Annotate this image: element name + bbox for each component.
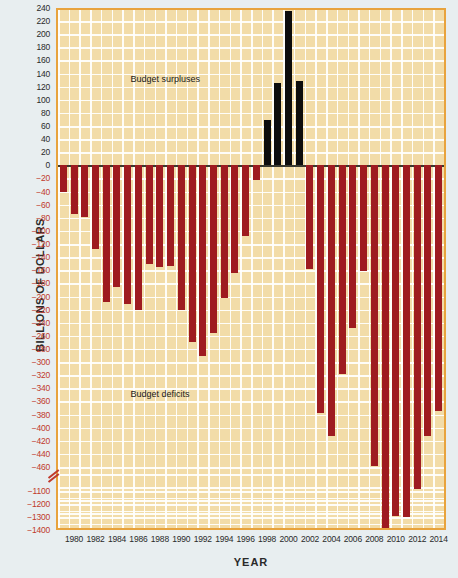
- gridline-h: [58, 100, 444, 102]
- y-tick-minus20: −20: [36, 173, 50, 183]
- annotation-budget-deficits: Budget deficits: [131, 389, 190, 399]
- y-tick-minus300: −300: [32, 357, 50, 367]
- gridline-h: [58, 21, 444, 23]
- annotation-budget-surpluses: Budget surpluses: [131, 74, 201, 84]
- gridline-v: [262, 10, 264, 528]
- bar-1979: [60, 165, 67, 191]
- gridline-h: [58, 126, 444, 128]
- x-axis-tick-labels: 1980198219841986198819901992199419961998…: [56, 534, 446, 548]
- gridline-v: [251, 10, 253, 528]
- gridline-v: [144, 10, 146, 528]
- x-tick-1992: 1992: [194, 534, 212, 544]
- gridline-v: [69, 10, 71, 528]
- x-tick-2014: 2014: [430, 534, 448, 544]
- y-axis-break-icon: [46, 470, 62, 482]
- y-tick-minus420: −420: [32, 436, 50, 446]
- y-tick-80: 80: [41, 108, 50, 118]
- bar-2007: [360, 165, 367, 271]
- bar-1990: [178, 165, 185, 310]
- bar-2002: [306, 165, 313, 269]
- bar-1993: [210, 165, 217, 332]
- bar-2006: [349, 165, 356, 328]
- y-tick-100: 100: [36, 95, 50, 105]
- gridline-v: [90, 10, 92, 528]
- y-tick-minus260: −260: [32, 331, 50, 341]
- bar-1982: [92, 165, 99, 249]
- y-tick-minus380: −380: [32, 410, 50, 420]
- y-tick-minus100: −100: [32, 226, 50, 236]
- bar-2001: [296, 81, 303, 165]
- y-tick-20: 20: [41, 147, 50, 157]
- y-tick-180: 180: [36, 42, 50, 52]
- y-tick-minus360: −360: [32, 396, 50, 406]
- x-tick-1986: 1986: [129, 534, 147, 544]
- x-tick-2006: 2006: [344, 534, 362, 544]
- y-tick-240: 240: [36, 3, 50, 13]
- x-tick-1984: 1984: [108, 534, 126, 544]
- bar-1997: [253, 165, 260, 179]
- bar-2013: [424, 165, 431, 436]
- y-axis-tick-labels: 240220200180160140120100806040200−20−40−…: [0, 0, 56, 578]
- y-tick-minus1300: −1300: [27, 512, 50, 522]
- y-tick-minus80: −80: [36, 213, 50, 223]
- bar-1983: [103, 165, 110, 301]
- gridline-h: [58, 152, 444, 154]
- bar-1996: [242, 165, 249, 235]
- x-axis-title: YEAR: [56, 556, 446, 568]
- gridline-h: [58, 74, 444, 76]
- y-tick-220: 220: [36, 16, 50, 26]
- y-tick-minus60: −60: [36, 200, 50, 210]
- gridline-h: [58, 34, 444, 36]
- y-tick-minus440: −440: [32, 449, 50, 459]
- bar-1981: [81, 165, 88, 217]
- x-tick-1982: 1982: [86, 534, 104, 544]
- chart-root: BILLIONS OF DOLLARS 24022020018016014012…: [0, 0, 458, 578]
- y-tick-minus160: −160: [32, 265, 50, 275]
- plot-area: Budget surpluses Budget deficits: [56, 8, 446, 530]
- x-tick-2012: 2012: [408, 534, 426, 544]
- y-tick-minus280: −280: [32, 344, 50, 354]
- bar-2012: [414, 165, 421, 489]
- bar-2010: [392, 165, 399, 516]
- y-tick-minus220: −220: [32, 305, 50, 315]
- bar-1986: [135, 165, 142, 310]
- gridline-h: [58, 8, 444, 10]
- x-tick-2002: 2002: [301, 534, 319, 544]
- y-tick-200: 200: [36, 29, 50, 39]
- x-tick-1996: 1996: [237, 534, 255, 544]
- y-tick-minus240: −240: [32, 318, 50, 328]
- y-tick-minus1200: −1200: [27, 499, 50, 509]
- bar-1999: [274, 83, 281, 166]
- bar-2005: [339, 165, 346, 374]
- gridline-h: [58, 87, 444, 89]
- bar-1985: [124, 165, 131, 304]
- y-tick-minus180: −180: [32, 278, 50, 288]
- y-tick-minus320: −320: [32, 370, 50, 380]
- bar-2008: [371, 165, 378, 466]
- gridline-h: [58, 113, 444, 115]
- x-tick-1990: 1990: [172, 534, 190, 544]
- y-tick-0: 0: [45, 160, 50, 170]
- bar-2011: [403, 165, 410, 517]
- gridline-h: [58, 139, 444, 141]
- y-tick-minus340: −340: [32, 383, 50, 393]
- x-tick-1988: 1988: [151, 534, 169, 544]
- gridline-h: [58, 60, 444, 62]
- y-tick-120: 120: [36, 82, 50, 92]
- bar-1994: [221, 165, 228, 298]
- bar-2014: [435, 165, 442, 411]
- bar-1984: [113, 165, 120, 286]
- x-tick-2008: 2008: [365, 534, 383, 544]
- gridline-v: [240, 10, 242, 528]
- bar-1987: [146, 165, 153, 263]
- gridline-v: [444, 10, 446, 528]
- y-tick-minus40: −40: [36, 187, 50, 197]
- y-tick-160: 160: [36, 55, 50, 65]
- gridline-v: [58, 10, 60, 528]
- gridline-h: [58, 47, 444, 49]
- bar-2003: [317, 165, 324, 413]
- y-tick-minus200: −200: [32, 292, 50, 302]
- y-tick-40: 40: [41, 134, 50, 144]
- bar-2000: [285, 11, 292, 166]
- y-tick-60: 60: [41, 121, 50, 131]
